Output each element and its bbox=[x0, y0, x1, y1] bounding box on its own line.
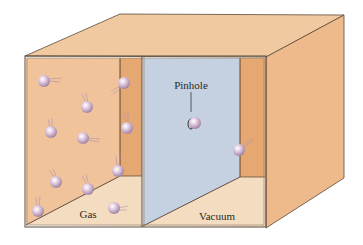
escaping-molecule bbox=[189, 117, 201, 129]
pinhole-label: Pinhole bbox=[174, 79, 208, 91]
molecule bbox=[77, 132, 89, 144]
molecule bbox=[32, 205, 44, 217]
vacuum-label: Vacuum bbox=[199, 210, 235, 222]
molecule bbox=[38, 75, 50, 87]
molecule bbox=[233, 144, 245, 156]
molecule bbox=[81, 101, 93, 113]
molecule bbox=[108, 202, 120, 214]
molecule bbox=[82, 183, 94, 195]
molecule bbox=[50, 176, 62, 188]
gas-inner-side-wall bbox=[120, 58, 142, 176]
molecule bbox=[112, 165, 124, 177]
effusion-diagram: Pinhole Gas Vacuum bbox=[0, 0, 363, 245]
gas-label: Gas bbox=[79, 208, 96, 220]
molecule bbox=[118, 77, 130, 89]
vacuum-inner-side-wall bbox=[240, 58, 265, 177]
molecule bbox=[121, 122, 133, 134]
molecule bbox=[45, 126, 57, 138]
